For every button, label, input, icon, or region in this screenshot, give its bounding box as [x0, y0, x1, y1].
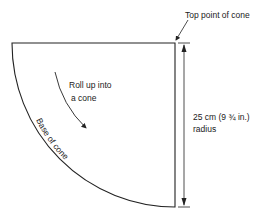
top-point-pointer [176, 20, 188, 40]
roll-up-label-2: a cone [71, 93, 97, 103]
dimension-label-2: radius [193, 124, 216, 134]
base-label: Base of cone [34, 116, 71, 161]
top-point-label: Top point of cone [185, 10, 250, 20]
cone-pattern-diagram: Top point of cone Roll up into a cone 25… [0, 0, 280, 222]
roll-up-label-1: Roll up into [69, 80, 112, 90]
dimension-label-1: 25 cm (9 ¾ in.) [193, 112, 250, 122]
radius-dimension [178, 43, 190, 207]
